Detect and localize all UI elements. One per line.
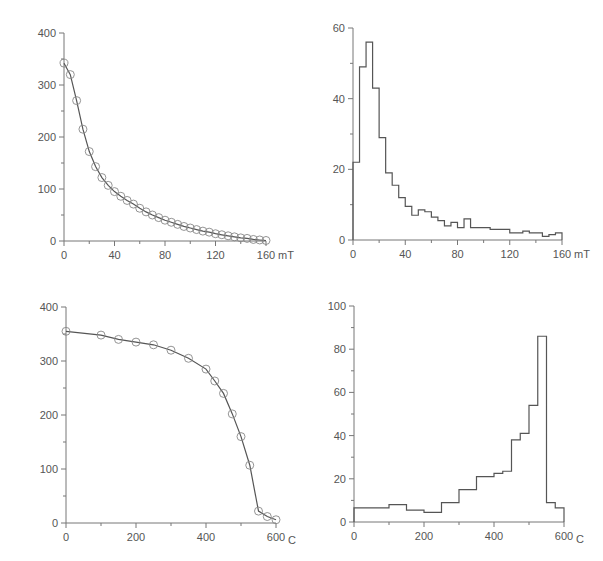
y-tick-label: 100	[328, 300, 346, 312]
x-tick-label: 600	[267, 531, 285, 543]
y-tick-label: 100	[40, 463, 58, 475]
y-tick-label: 100	[38, 183, 56, 195]
x-tick-label: 400	[485, 530, 503, 542]
x-tick-label: 0	[61, 249, 67, 261]
x-tick-label: 200	[415, 530, 433, 542]
chart-thermal-demagnetization: 01002003004000200400600C	[0, 285, 300, 561]
x-tick-label: 0	[350, 248, 356, 260]
chart-af-histogram: 020406004080120160mT	[300, 0, 603, 284]
data-line	[64, 63, 266, 240]
histogram-steps	[354, 336, 564, 522]
x-tick-label: 600	[555, 530, 573, 542]
y-tick-label: 0	[52, 517, 58, 529]
y-tick-label: 40	[333, 93, 345, 105]
y-tick-label: 0	[339, 234, 345, 246]
x-tick-label: 40	[108, 249, 120, 261]
y-tick-label: 200	[40, 409, 58, 421]
y-tick-label: 300	[40, 355, 58, 367]
histogram-steps	[353, 42, 562, 240]
chart-af-demagnetization: 010020030040004080120160mT	[0, 0, 300, 284]
x-tick-label: 80	[451, 248, 463, 260]
y-tick-label: 40	[334, 430, 346, 442]
x-tick-label: 80	[159, 249, 171, 261]
y-tick-label: 60	[333, 22, 345, 34]
y-tick-label: 400	[38, 27, 56, 39]
y-tick-label: 20	[334, 473, 346, 485]
x-axis-unit-label: C	[288, 534, 296, 546]
y-tick-label: 0	[50, 235, 56, 247]
x-tick-label: 160	[257, 249, 275, 261]
y-tick-label: 200	[38, 131, 56, 143]
y-tick-label: 300	[38, 79, 56, 91]
x-tick-label: 200	[127, 531, 145, 543]
y-tick-label: 20	[333, 163, 345, 175]
x-tick-label: 0	[63, 531, 69, 543]
x-axis-unit-label: mT	[278, 249, 294, 261]
x-tick-label: 40	[399, 248, 411, 260]
x-axis-unit-label: C	[576, 533, 584, 545]
x-tick-label: 160	[553, 248, 571, 260]
x-tick-label: 0	[351, 530, 357, 542]
x-axis-unit-label: mT	[574, 248, 590, 260]
x-tick-label: 400	[197, 531, 215, 543]
x-tick-label: 120	[206, 249, 224, 261]
y-tick-label: 60	[334, 386, 346, 398]
y-tick-label: 0	[340, 516, 346, 528]
x-tick-label: 120	[501, 248, 519, 260]
y-tick-label: 400	[40, 301, 58, 313]
chart-thermal-histogram: 0204060801000200400600C	[300, 285, 603, 561]
data-line	[66, 331, 276, 520]
y-tick-label: 80	[334, 343, 346, 355]
